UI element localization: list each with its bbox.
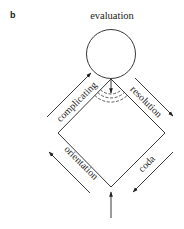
narrative-diagram: b evaluation complicating resolution ori… bbox=[0, 0, 184, 229]
orientation-label: orientation bbox=[62, 143, 100, 181]
evaluation-node bbox=[87, 30, 136, 79]
complicating-label: complicating bbox=[54, 79, 99, 124]
panel-label: b bbox=[10, 10, 16, 20]
evaluation-label: evaluation bbox=[90, 10, 134, 21]
